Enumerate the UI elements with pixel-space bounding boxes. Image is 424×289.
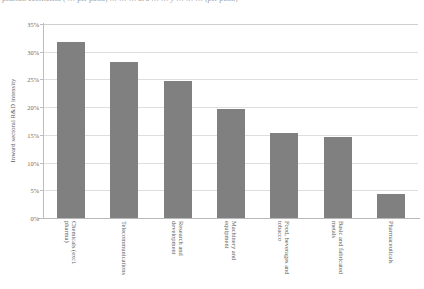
x-category-line: Research and — [178, 221, 185, 256]
plot-area — [44, 24, 418, 218]
y-tick-label-5%: 5% — [17, 187, 39, 194]
x-category-label: Telecommunications — [98, 221, 150, 287]
gridline-25% — [44, 79, 418, 80]
x-category-line: Machinery and — [231, 221, 238, 260]
x-category-line: Chemicals (excl. — [71, 221, 78, 265]
x-axis-line — [38, 218, 420, 219]
y-tick-label-0%: 0% — [17, 215, 39, 222]
x-category-label: Research anddevelopment — [152, 221, 204, 287]
y-tick-label-15%: 15% — [17, 131, 39, 138]
bar — [57, 42, 85, 218]
x-category-line: Food, beverages and — [285, 221, 292, 275]
y-tick-label-25%: 25% — [17, 76, 39, 83]
y-axis-title-label: Inward sectoral R&D intensity — [9, 78, 16, 162]
x-category-label: Food, beverages andtobacco — [258, 221, 310, 287]
gridline-20% — [44, 107, 418, 108]
y-tick-label-10%: 10% — [17, 159, 39, 166]
bar — [324, 137, 352, 218]
bar — [110, 62, 138, 218]
y-tick-label-30%: 30% — [17, 48, 39, 55]
bar-chart-figure: pearson coefficient ( … per point) … … …… — [0, 0, 424, 289]
bar — [217, 109, 245, 218]
x-category-line: Pharmaceuticals — [388, 221, 395, 264]
x-category-label: Pharmaceuticals — [365, 221, 417, 287]
y-tick-label-20%: 20% — [17, 104, 39, 111]
x-axis-category-labels: Chemicals (excl.pharma)Telecommunication… — [44, 221, 418, 289]
gridline-30% — [44, 52, 418, 53]
cropped-caption-sliver: pearson coefficient ( … per point) … … …… — [0, 0, 424, 7]
x-category-label: Chemicals (excl.pharma) — [45, 221, 97, 287]
cropped-caption-text: pearson coefficient ( … per point) … … …… — [2, 0, 238, 3]
gridline-35% — [44, 24, 418, 25]
x-category-line: equipment — [224, 221, 231, 260]
y-tick-label-35%: 35% — [17, 21, 39, 28]
x-category-line: metals — [330, 221, 337, 274]
x-category-line: Basic and fabricated — [338, 221, 345, 274]
bar — [377, 194, 405, 218]
x-category-line: Telecommunications — [121, 221, 128, 275]
x-category-line: development — [170, 221, 177, 256]
bar — [164, 81, 192, 218]
x-category-label: Machinery andequipment — [205, 221, 257, 287]
y-axis-title: Inward sectoral R&D intensity — [5, 60, 19, 180]
x-category-line: pharma) — [63, 221, 70, 265]
x-category-line: tobacco — [277, 221, 284, 275]
bar — [270, 133, 298, 218]
x-category-label: Basic and fabricatedmetals — [312, 221, 364, 287]
